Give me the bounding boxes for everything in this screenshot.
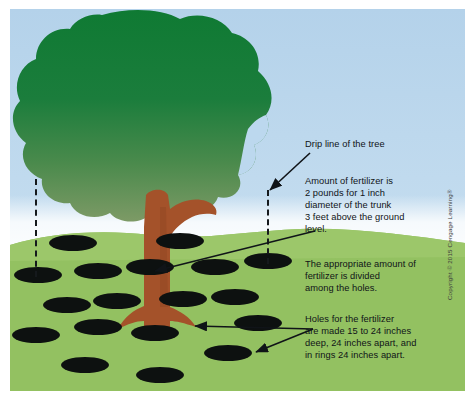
hole [126,259,174,275]
hole [93,293,141,309]
hole [191,259,239,275]
hole [234,315,282,331]
hole [12,327,60,343]
hole [74,319,122,335]
annotation-amount: Amount of fertilizer is 2 pounds for 1 i… [305,175,404,235]
hole [74,263,122,279]
hole [49,235,97,251]
fertilizer-holes [10,227,465,391]
hole [14,267,62,283]
hole [159,291,207,307]
annotation-holes: Holes for the fertilizer are made 15 to … [305,313,416,361]
drip-line-left [35,179,37,277]
hole [156,233,204,249]
hole [131,325,179,341]
hole [61,357,109,373]
hole [204,345,252,361]
hole [43,297,91,313]
hole [211,289,259,305]
drip-line-right [267,190,269,264]
annotation-drip-line: Drip line of the tree [305,138,385,150]
copyright-notice: Copyright © 2015 Cengage Learning® [446,189,453,300]
hole [136,367,184,383]
figure-container: Drip line of the tree Amount of fertiliz… [0,0,476,404]
annotation-divided: The appropriate amount of fertilizer is … [305,258,416,294]
